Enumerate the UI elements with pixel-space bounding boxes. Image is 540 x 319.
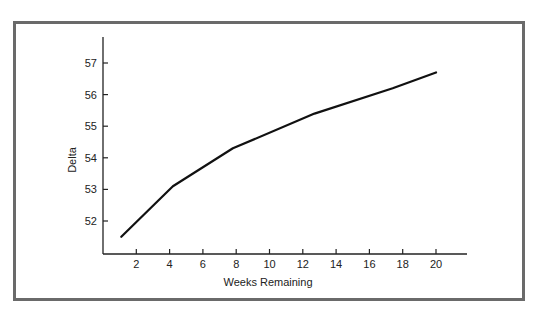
axes (103, 37, 467, 254)
x-axis-title: Weeks Remaining (223, 276, 312, 288)
y-axis-title: Delta (66, 146, 78, 173)
data-line (121, 73, 436, 237)
y-tick-label: 56 (85, 89, 97, 101)
x-tick-label: 12 (297, 258, 309, 270)
y-tick-label: 52 (85, 215, 97, 227)
x-tick-label: 6 (200, 258, 206, 270)
y-tick-label: 54 (85, 152, 97, 164)
y-tick-label: 55 (85, 120, 97, 132)
x-tick-label: 16 (363, 258, 375, 270)
x-tick-label: 20 (430, 258, 442, 270)
y-tick-label: 57 (85, 57, 97, 69)
x-tick-label: 18 (397, 258, 409, 270)
x-tick-label: 14 (330, 258, 342, 270)
x-tick-label: 10 (263, 258, 275, 270)
x-tick-label: 4 (167, 258, 173, 270)
y-tick-label: 53 (85, 183, 97, 195)
x-tick-label: 8 (233, 258, 239, 270)
line-chart: 525354555657 2468101214161820 Weeks Rema… (0, 0, 540, 319)
x-tick-label: 2 (133, 258, 139, 270)
y-axis-ticks: 525354555657 (85, 57, 108, 227)
x-axis-ticks: 2468101214161820 (133, 249, 442, 270)
